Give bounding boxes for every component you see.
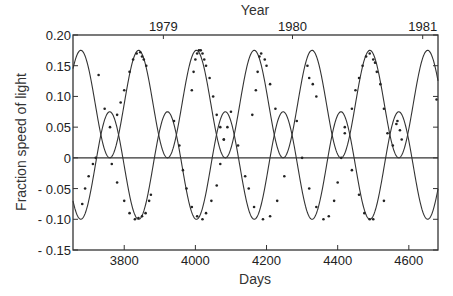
data-point (251, 114, 254, 117)
y-tick-label: - 0.15 (38, 243, 71, 258)
data-point (262, 218, 265, 221)
y-tick-label: - 0.05 (38, 182, 71, 197)
data-point (144, 212, 147, 215)
data-point (283, 175, 286, 178)
y-tick-label: 0.05 (46, 120, 71, 135)
data-point (396, 120, 399, 123)
data-point (201, 52, 204, 55)
data-point (109, 126, 112, 129)
data-point (247, 187, 250, 190)
data-point (92, 163, 95, 166)
data-point (343, 126, 346, 129)
data-point (230, 110, 233, 113)
data-point (361, 64, 364, 67)
data-point (173, 120, 176, 123)
data-point (308, 77, 311, 80)
y-tick-label: - 0.10 (38, 212, 71, 227)
data-point (372, 218, 375, 221)
data-point (212, 95, 215, 98)
data-point (336, 181, 339, 184)
data-point (333, 200, 336, 203)
data-point (94, 157, 97, 160)
chart: 0.200.150.100.050- 0.05- 0.10- 0.15 3800… (0, 0, 453, 296)
data-point (244, 175, 247, 178)
data-point (194, 58, 197, 61)
data-point (354, 89, 357, 92)
plot-area (73, 49, 438, 221)
data-point (123, 200, 126, 203)
data-point (128, 212, 131, 215)
data-point (237, 144, 240, 147)
y-tick-label: 0.20 (46, 28, 71, 43)
data-point (379, 83, 382, 86)
top-year-axis: 197919801981 (149, 19, 437, 39)
data-point (116, 181, 119, 184)
y-tick-label: 0.10 (46, 89, 71, 104)
data-point (141, 215, 144, 218)
x-tick-label: 4400 (323, 253, 352, 268)
data-point (255, 89, 258, 92)
data-point (301, 157, 304, 160)
model-curve-blueshift (73, 112, 438, 220)
data-point (258, 55, 261, 58)
x-tick-label: 3800 (110, 253, 139, 268)
data-point (145, 64, 148, 67)
data-point (141, 55, 144, 58)
data-point (205, 64, 208, 67)
data-point (392, 144, 395, 147)
data-point (134, 218, 137, 221)
data-point (103, 107, 106, 110)
data-point (201, 218, 204, 221)
data-point (191, 206, 194, 209)
data-point (308, 187, 311, 190)
data-point (128, 71, 131, 74)
data-point (276, 200, 279, 203)
data-point (215, 184, 218, 187)
data-points (81, 49, 438, 221)
data-point (178, 144, 181, 147)
data-point (148, 200, 151, 203)
year-tick-label: 1979 (149, 19, 178, 34)
x-tick-label: 4600 (394, 253, 423, 268)
data-point (208, 77, 211, 80)
y-axis-title: Fraction speed of light (13, 73, 29, 211)
data-point (340, 157, 343, 160)
data-point (295, 120, 298, 123)
data-point (256, 71, 259, 74)
plot-frame (73, 35, 438, 250)
y-tick-label: 0 (64, 151, 71, 166)
data-point (372, 58, 375, 61)
data-point (219, 163, 222, 166)
data-point (132, 58, 135, 61)
year-tick-label: 1981 (408, 19, 437, 34)
data-point (81, 203, 84, 206)
data-point (383, 200, 386, 203)
data-point (137, 217, 140, 220)
data-point (226, 126, 229, 129)
data-point (351, 169, 354, 172)
data-point (400, 138, 403, 141)
data-point (191, 89, 194, 92)
data-point (123, 89, 126, 92)
data-point (263, 58, 266, 61)
data-point (97, 74, 100, 77)
data-point (311, 83, 314, 86)
data-point (199, 49, 202, 52)
data-point (260, 52, 263, 55)
data-point (192, 71, 195, 74)
data-point (110, 163, 113, 166)
data-point (383, 107, 386, 110)
data-point (265, 64, 268, 67)
data-point (269, 83, 272, 86)
data-point (185, 187, 188, 190)
data-point (116, 114, 119, 117)
data-point (343, 132, 346, 135)
data-point (205, 212, 208, 215)
data-point (196, 215, 199, 218)
data-point (327, 215, 330, 218)
data-point (223, 138, 226, 141)
year-tick-label: 1980 (278, 19, 307, 34)
x-axis-title: Days (239, 271, 271, 287)
data-point (358, 77, 361, 80)
y-axis: 0.200.150.100.050- 0.05- 0.10- 0.15 (38, 28, 438, 258)
